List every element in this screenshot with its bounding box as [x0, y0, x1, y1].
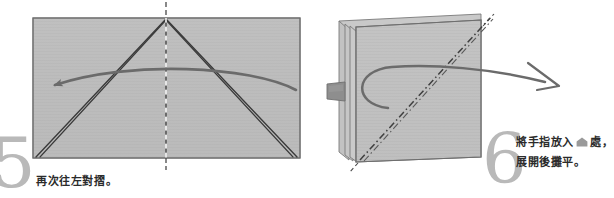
- step6-diagonal-extend-bottom: [350, 163, 358, 172]
- pentagon-marker-icon: [576, 137, 588, 147]
- step6-finger-insert-tab: [327, 82, 345, 101]
- step-6-caption-text-after: 處，: [590, 136, 613, 149]
- step-5-caption: 再次往左對摺。: [36, 172, 117, 188]
- origami-instruction-page: 5 再次往左對摺。 6 將手指放入處， 展開後攤平。: [0, 0, 614, 198]
- step6-front-face-shade: [356, 20, 481, 162]
- step-6-caption-text-before: 將手指放入: [516, 136, 574, 149]
- step-5-number: 5: [0, 128, 36, 198]
- step6-open-arrow-head: [528, 63, 559, 90]
- step-6-caption-line-1: 將手指放入處，: [516, 133, 613, 149]
- step-6-caption-line-2: 展開後攤平。: [516, 153, 586, 169]
- step5-diagram: [33, 2, 300, 170]
